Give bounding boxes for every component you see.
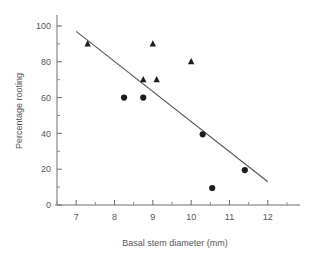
data-point-circle: [140, 94, 146, 100]
x-axis-tick-label: 10: [186, 212, 196, 222]
x-axis-title: Basal stem diameter (mm): [122, 238, 228, 248]
data-point-circle: [200, 131, 206, 137]
y-axis-tick-label: 60: [41, 93, 51, 103]
chart-figure: 020406080100 789101112 Percentage rootin…: [0, 0, 320, 257]
scatter-plot: 020406080100 789101112 Percentage rootin…: [0, 0, 320, 257]
figure-caption-fragment: [0, 251, 320, 257]
y-axis-tick-label: 40: [41, 129, 51, 139]
x-axis-tick-label: 9: [150, 212, 155, 222]
x-axis-tick-label: 8: [112, 212, 117, 222]
y-axis-tick-label: 0: [46, 200, 51, 210]
data-point-circle: [209, 185, 215, 191]
y-axis-tick-label: 100: [36, 21, 51, 31]
y-axis-tick-label: 80: [41, 57, 51, 67]
x-axis-tick-label: 7: [74, 212, 79, 222]
y-axis-tick-label: 20: [41, 164, 51, 174]
data-point-circle: [121, 94, 127, 100]
data-point-circle: [242, 167, 248, 173]
y-axis-title: Percentage rooting: [14, 73, 24, 149]
x-axis-tick-label: 11: [225, 212, 234, 222]
x-axis-tick-label: 12: [263, 212, 273, 222]
